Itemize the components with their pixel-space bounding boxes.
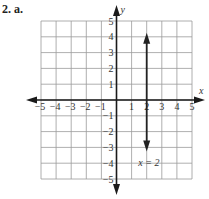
y-tick-label: 1 [109,79,114,90]
coordinate-plane: x y −5−4−3−2−112345 54321−1−2−3−4−5 x = … [0,0,209,199]
graph-line-x-equals-2 [143,33,150,152]
x-tick-label: −2 [80,101,91,112]
y-tick-label: 4 [109,31,114,42]
x-tick-label: −4 [50,101,61,112]
y-axis-up-arrow-icon [113,5,120,16]
y-tick-label: 2 [109,63,114,74]
equation-label: x = 2 [137,157,159,168]
x-tick-label: 5 [190,101,195,112]
y-tick-label: −1 [103,110,114,121]
x-tick-label: −5 [35,101,46,112]
x-tick-label: −3 [65,101,76,112]
y-axis-label: y [120,4,126,15]
x-tick-labels: −5−4−3−2−112345 [35,101,195,112]
x-axis-right-arrow-icon [194,97,205,104]
x-tick-label: 1 [129,101,134,112]
line-down-arrow-icon [143,140,150,151]
y-axis-down-arrow-icon [113,184,120,195]
equation-label-text: x = 2 [137,157,159,168]
y-tick-label: 5 [109,16,114,27]
y-tick-label: −3 [103,142,114,153]
x-axis-label: x [198,85,204,96]
y-tick-label: −4 [103,158,114,169]
x-tick-label: 3 [159,101,164,112]
line-up-arrow-icon [143,33,150,44]
x-tick-label: 4 [174,101,179,112]
y-tick-label: −2 [103,126,114,137]
y-tick-label: 3 [109,47,114,58]
y-tick-label: −5 [103,174,114,185]
